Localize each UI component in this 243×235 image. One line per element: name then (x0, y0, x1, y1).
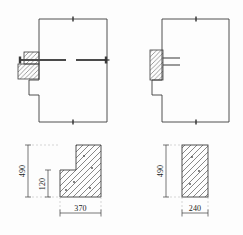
left-plan-hatched-block-upper (24, 52, 39, 64)
dim-label-left-370: 370 (74, 204, 87, 213)
left-plan-outline (29, 19, 107, 122)
left-section-view: 490 120 370 (18, 145, 101, 217)
right-plan-outline (152, 19, 229, 122)
dim-label-left-120: 120 (38, 178, 47, 191)
left-plan-hatched-block-lower (18, 64, 39, 79)
left-section-dim-120: 120 (38, 170, 51, 197)
drawing-sheet: 490 120 370 (0, 0, 243, 235)
aggregate-dot (89, 187, 91, 189)
technical-drawing-canvas: 490 120 370 (0, 0, 243, 235)
left-section-dim-370: 370 (60, 197, 101, 217)
dim-label-right-240: 240 (189, 204, 202, 213)
aggregate-dot (83, 155, 85, 157)
right-section-dim-240: 240 (182, 197, 208, 217)
left-plan-view (18, 17, 110, 125)
dim-label-right-490: 490 (156, 165, 165, 178)
right-section-view: 490 240 (156, 145, 208, 217)
dim-label-left-490: 490 (18, 165, 27, 178)
right-plan-hatched-block (150, 50, 163, 80)
aggregate-dot (198, 170, 200, 172)
aggregate-dot (191, 156, 193, 158)
right-section-dim-490: 490 (156, 145, 182, 197)
aggregate-dot (73, 181, 75, 183)
right-plan-view (150, 17, 229, 125)
aggregate-dot (189, 183, 191, 185)
aggregate-dot (91, 167, 93, 169)
aggregate-dot (65, 189, 67, 191)
right-section-profile (182, 145, 208, 197)
